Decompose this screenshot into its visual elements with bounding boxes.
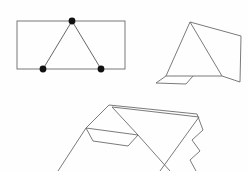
tent-end-panel-left-edge xyxy=(86,105,109,128)
tent-end-panel-bottom-edge xyxy=(86,128,138,135)
tent-side-panel-right-edge xyxy=(240,36,241,82)
inscribed-triangle-left-leg xyxy=(43,21,72,69)
tent-ground-flap xyxy=(86,128,138,146)
drawing-canvas xyxy=(0,0,248,171)
tent-side-panel-top-edge xyxy=(190,22,241,36)
tent-right-face-edge xyxy=(160,117,199,171)
tent-end-panel-right-edge xyxy=(112,107,138,135)
tent-front-left-edge xyxy=(166,22,190,76)
guy-line-right xyxy=(138,135,170,171)
figure-tent-with-guy-lines xyxy=(58,105,203,171)
tent-side-panel-bottom-edge xyxy=(222,76,240,82)
tent-ridge-line-lower xyxy=(112,107,199,117)
outer-rectangle xyxy=(17,21,125,69)
vertex-dot-base-left xyxy=(40,66,47,73)
tent-front-right-edge xyxy=(190,22,222,76)
figure-tent-with-side-panel xyxy=(156,22,241,84)
inscribed-triangle-right-leg xyxy=(72,21,101,69)
tent-ridge-line-upper xyxy=(109,105,197,114)
figure-rectangle-with-inscribed-triangle xyxy=(17,18,125,73)
tent-ground-flap xyxy=(156,76,193,84)
guy-line-left xyxy=(58,128,86,171)
zigzag-right-edge xyxy=(190,114,203,171)
vertex-dot-base-right xyxy=(98,66,105,73)
line-drawing-figure-group xyxy=(0,0,248,171)
vertex-dot-apex xyxy=(69,18,76,25)
